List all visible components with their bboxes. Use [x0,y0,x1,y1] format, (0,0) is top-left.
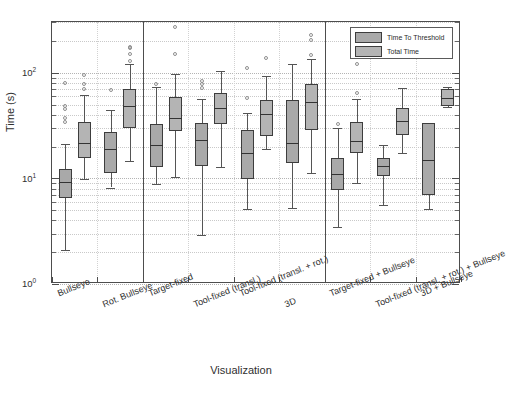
y-tick-label-100: 102 [22,66,36,78]
legend-swatch-total-time [355,46,382,57]
box-plot-total [52,22,461,284]
y-axis-title: Time (s) [4,92,16,132]
legend-item-total-time: Total Time [355,45,448,57]
chart-legend: Time To Threshold Total Time [350,27,453,59]
legend-swatch-time-to-threshold [355,32,382,43]
legend-item-time-to-threshold: Time To Threshold [355,31,448,43]
whisker-cap-lower [443,107,452,108]
plot-area [51,21,460,283]
legend-label-total-time: Total Time [387,48,419,55]
whisker-cap-upper [443,87,452,88]
x-axis-title: Visualization [0,364,482,376]
y-tick-label-1: 100 [22,277,36,289]
y-axis-tick [52,284,59,285]
median-line [441,98,454,99]
y-tick-label-10: 101 [22,172,36,184]
legend-label-time-to-threshold: Time To Threshold [387,34,444,41]
x-axis-category-label: 3D [283,296,297,310]
